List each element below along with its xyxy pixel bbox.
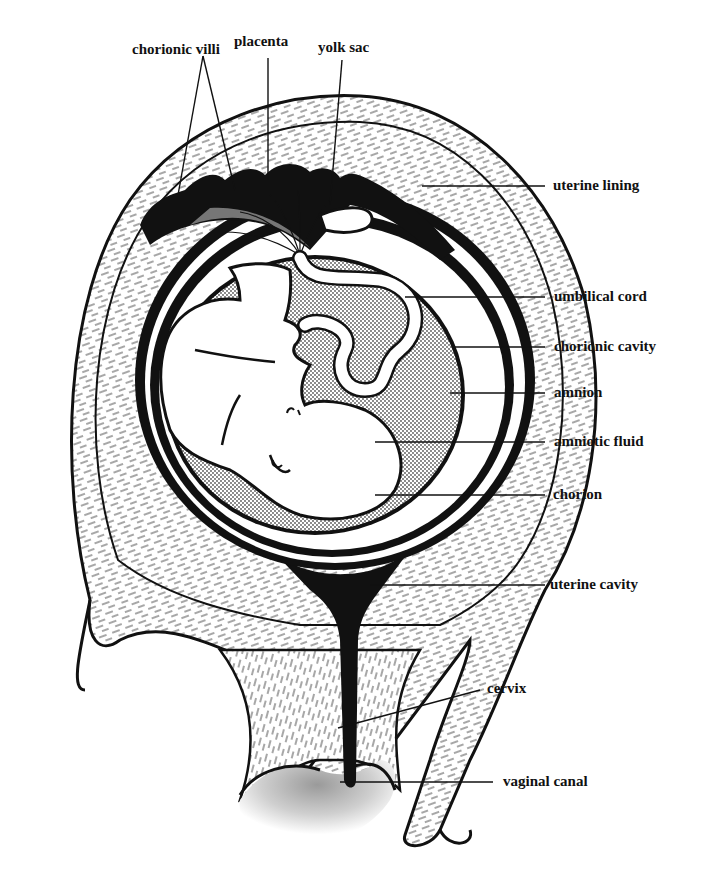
label-cervix: cervix — [487, 681, 526, 696]
label-placenta: placenta — [234, 34, 288, 49]
label-uterine-lining: uterine lining — [553, 178, 639, 193]
label-chorionic-villi: chorionic villi — [132, 42, 220, 57]
label-chorion: chorion — [553, 487, 602, 502]
label-amnion: amnion — [554, 385, 602, 400]
label-umbilical-cord: umbilical cord — [554, 289, 647, 304]
label-yolk-sac: yolk sac — [318, 40, 369, 55]
label-chorionic-cavity: chorionic cavity — [554, 339, 656, 354]
yolk-sac — [320, 208, 372, 232]
label-vaginal-canal: vaginal canal — [503, 774, 588, 789]
label-amniotic-fluid: amniotic fluid — [554, 434, 644, 449]
label-uterine-cavity: uterine cavity — [550, 577, 638, 592]
